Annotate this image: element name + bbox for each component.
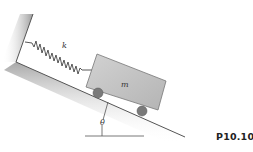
wall-shading: [2, 14, 33, 62]
figure-label: P10.10: [216, 131, 253, 142]
spring: [25, 41, 92, 74]
wheel-right: [137, 106, 147, 116]
spring-mass-incline-diagram: k m θ: [0, 0, 253, 152]
wheel-left: [93, 88, 103, 98]
mass-label: m: [121, 80, 129, 89]
angle-label: θ: [100, 118, 105, 127]
spring-constant-label: k: [62, 41, 67, 50]
